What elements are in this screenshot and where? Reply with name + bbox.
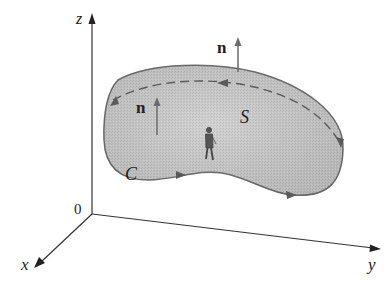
curve-label: C: [125, 164, 138, 184]
normal-vector-top: [235, 37, 242, 72]
y-axis-arrowhead-icon: [370, 245, 382, 253]
y-axis: [92, 214, 381, 252]
y-axis-label: y: [366, 255, 376, 274]
normal-label-top: n: [217, 38, 227, 57]
origin-label: 0: [74, 201, 82, 217]
z-axis-label: z: [75, 10, 83, 27]
x-axis-arrowhead-icon: [34, 257, 45, 268]
x-axis-label: x: [20, 255, 29, 274]
x-axis: [34, 214, 92, 268]
surface-label: S: [240, 107, 249, 127]
z-axis-arrowhead-icon: [89, 13, 96, 24]
z-axis: [89, 13, 96, 214]
normal-arrowhead-icon: [235, 37, 242, 46]
stokes-surface-diagram: z 0 x y n n S C: [0, 0, 391, 297]
normal-label-left: n: [136, 98, 146, 117]
